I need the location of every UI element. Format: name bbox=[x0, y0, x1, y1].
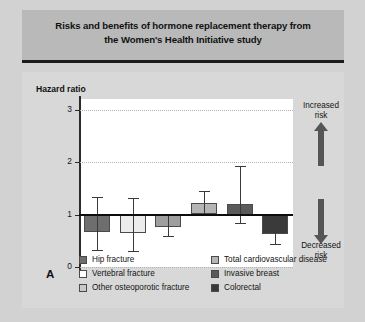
error-bar-cap-0-lower bbox=[92, 250, 103, 251]
legend-label: Hip fracture bbox=[92, 254, 134, 266]
increased-risk-label: Increased risk bbox=[298, 101, 344, 121]
error-bar-1 bbox=[133, 198, 134, 251]
tick-mark-2 bbox=[75, 162, 80, 163]
legend-item: Total cardiovascular disease bbox=[211, 254, 337, 267]
error-bar-cap-5-upper bbox=[270, 219, 281, 220]
gridline-2 bbox=[80, 162, 293, 163]
legend-label: Colorectal bbox=[224, 282, 261, 294]
reference-line bbox=[79, 214, 293, 216]
legend-label: Total cardiovascular disease bbox=[224, 254, 327, 266]
title-line-2: the Women's Health Initiative study bbox=[104, 34, 261, 45]
arrow-up-shaft bbox=[318, 130, 324, 166]
legend-item: Colorectal bbox=[211, 282, 337, 295]
figure-container: Risks and benefits of hormone replacemen… bbox=[0, 0, 365, 322]
gridline-3 bbox=[80, 110, 293, 111]
legend-item: Hip fracture bbox=[79, 254, 209, 267]
y-axis-spine bbox=[79, 96, 81, 270]
legend-item: Invasive breast bbox=[211, 268, 337, 281]
error-bar-cap-4-upper bbox=[235, 166, 246, 167]
error-bar-cap-2-lower bbox=[163, 236, 174, 237]
chart-legend: Hip fractureVertebral fractureOther oste… bbox=[79, 254, 337, 298]
legend-swatch-icon bbox=[79, 270, 87, 278]
legend-swatch-icon bbox=[79, 284, 87, 292]
legend-swatch-icon bbox=[211, 256, 219, 264]
y-axis-label: Hazard ratio bbox=[36, 84, 86, 94]
error-bar-cap-0-upper bbox=[92, 197, 103, 198]
y-tick-label-2: 2 bbox=[52, 156, 72, 166]
legend-item: Vertebral fracture bbox=[79, 268, 209, 281]
legend-label: Invasive breast bbox=[224, 268, 279, 280]
title-line-1: Risks and benefits of hormone replacemen… bbox=[55, 20, 310, 31]
legend-column-right: Total cardiovascular diseaseInvasive bre… bbox=[211, 254, 337, 296]
increased-risk-line-2: risk bbox=[315, 111, 328, 120]
chart-panel: Hazard ratio 0123 Increased risk Decreas… bbox=[22, 72, 344, 308]
page-title: Risks and benefits of hormone replacemen… bbox=[22, 19, 344, 47]
error-bar-2 bbox=[168, 215, 169, 236]
y-tick-label-1: 1 bbox=[52, 209, 72, 219]
legend-swatch-icon bbox=[79, 256, 87, 264]
arrow-down-shaft bbox=[318, 199, 324, 235]
legend-label: Other osteoporotic fracture bbox=[92, 282, 189, 294]
error-bar-cap-5-lower bbox=[270, 244, 281, 245]
y-tick-label-0: 0 bbox=[52, 261, 72, 271]
legend-swatch-icon bbox=[211, 284, 219, 292]
error-bar-5 bbox=[275, 219, 276, 245]
decreased-risk-line-1: Decreased bbox=[301, 241, 341, 250]
error-bar-cap-1-lower bbox=[128, 251, 139, 252]
error-bar-3 bbox=[204, 191, 205, 215]
legend-item: Other osteoporotic fracture bbox=[79, 282, 209, 295]
plot-area: 0123 bbox=[79, 99, 293, 267]
y-tick-label-3: 3 bbox=[52, 104, 72, 114]
title-banner: Risks and benefits of hormone replacemen… bbox=[22, 10, 344, 63]
legend-swatch-icon bbox=[211, 270, 219, 278]
panel-letter: A bbox=[46, 268, 54, 280]
error-bar-cap-4-lower bbox=[235, 223, 246, 224]
error-bar-cap-3-upper bbox=[199, 191, 210, 192]
error-bar-0 bbox=[97, 197, 98, 250]
tick-mark-3 bbox=[75, 110, 80, 111]
error-bar-cap-1-upper bbox=[128, 198, 139, 199]
increased-risk-line-1: Increased bbox=[303, 101, 339, 110]
legend-column-left: Hip fractureVertebral fractureOther oste… bbox=[79, 254, 209, 296]
legend-label: Vertebral fracture bbox=[92, 268, 155, 280]
risk-direction-annotation: Increased risk Decreased risk bbox=[298, 99, 344, 267]
